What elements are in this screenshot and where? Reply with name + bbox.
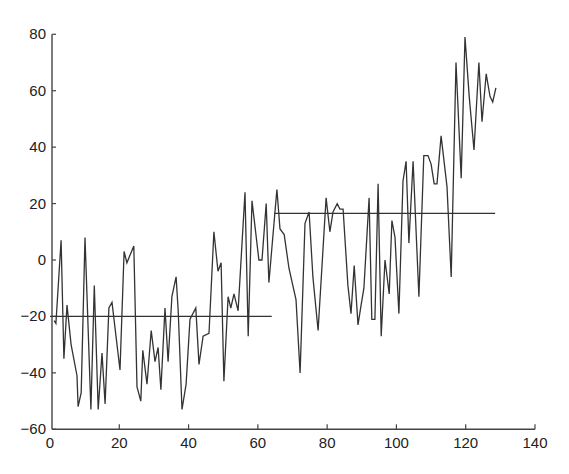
y-tick-label: 40 — [29, 138, 46, 155]
x-tick-label: 140 — [522, 434, 547, 451]
x-tick-label: 0 — [46, 434, 54, 451]
x-tick-label: 120 — [453, 434, 478, 451]
x-tick-label: 40 — [180, 434, 197, 451]
y-tick-label: 80 — [29, 25, 46, 42]
x-tick-label: 100 — [384, 434, 409, 451]
y-tick-label: 0 — [38, 251, 46, 268]
axes — [52, 34, 535, 429]
x-tick-label: 60 — [250, 434, 267, 451]
reference-lines — [50, 213, 495, 316]
y-tick-label: 20 — [29, 195, 46, 212]
data-series — [54, 37, 496, 409]
x-tick-label: 20 — [111, 434, 128, 451]
y-tick-label: −60 — [21, 420, 46, 437]
line-chart: −60−40−20020406080020406080100120140 — [0, 0, 569, 474]
y-tick-label: −20 — [21, 307, 46, 324]
y-tick-label: −40 — [21, 364, 46, 381]
y-tick-label: 60 — [29, 82, 46, 99]
series-line — [54, 37, 496, 409]
x-tick-label: 80 — [319, 434, 336, 451]
